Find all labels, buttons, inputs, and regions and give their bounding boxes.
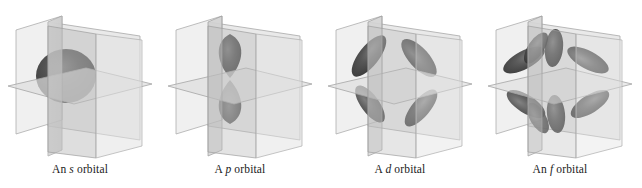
caption-prefix-f: An	[533, 163, 550, 175]
plane-vertical-right-slab	[576, 34, 622, 158]
caption-suffix-s: orbital	[74, 163, 108, 175]
orbital-diagram-p	[160, 0, 320, 160]
orbital-panel-s: An s orbital	[0, 0, 160, 188]
plane-vertical-front-slab	[208, 26, 256, 158]
plane-vertical-front-slab	[48, 26, 96, 158]
orbital-panel-f: An f orbital	[480, 0, 640, 188]
orbital-caption-s: An s orbital	[0, 163, 160, 175]
plane-vertical-front-slab	[368, 26, 416, 158]
orbital-panel-d: A d orbital	[320, 0, 480, 188]
plane-vertical-right-slab	[96, 34, 142, 158]
caption-prefix-p: A	[215, 163, 226, 175]
orbital-shapes-figure: An s orbital	[0, 0, 642, 188]
caption-suffix-d: orbital	[391, 163, 425, 175]
orbital-caption-f: An f orbital	[480, 163, 640, 175]
orbital-panel-p: A p orbital	[160, 0, 320, 188]
orbital-caption-d: A d orbital	[320, 163, 480, 175]
orbital-diagram-f	[480, 0, 640, 160]
caption-suffix-p: orbital	[231, 163, 265, 175]
orbital-caption-p: A p orbital	[160, 163, 320, 175]
plane-vertical-front-slab	[528, 26, 576, 158]
caption-prefix-s: An	[52, 163, 69, 175]
caption-prefix-d: A	[375, 163, 386, 175]
caption-suffix-f: orbital	[553, 163, 587, 175]
orbital-diagram-d	[320, 0, 480, 160]
orbital-diagram-s	[0, 0, 160, 160]
plane-vertical-right-slab	[256, 34, 302, 158]
plane-vertical-right-slab	[416, 34, 462, 158]
